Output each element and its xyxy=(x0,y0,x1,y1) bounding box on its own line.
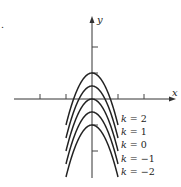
curve-label: k = 1 xyxy=(121,126,147,137)
y-axis-label: y xyxy=(96,14,103,25)
part-marker: . xyxy=(1,19,4,30)
curve-label: k = −2 xyxy=(121,166,155,177)
curve-labels: k = 2k = 1k = 0k = −1k = −2 xyxy=(121,113,155,177)
curve-label: k = −1 xyxy=(121,153,155,164)
y-axis-arrow-icon xyxy=(90,16,95,23)
x-axis-label: x xyxy=(172,87,178,98)
family-of-curves-plot: x y . k = 2k = 1k = 0k = −1k = −2 xyxy=(0,0,181,187)
curve-label: k = 0 xyxy=(121,139,147,150)
curve-label: k = 2 xyxy=(121,113,147,124)
